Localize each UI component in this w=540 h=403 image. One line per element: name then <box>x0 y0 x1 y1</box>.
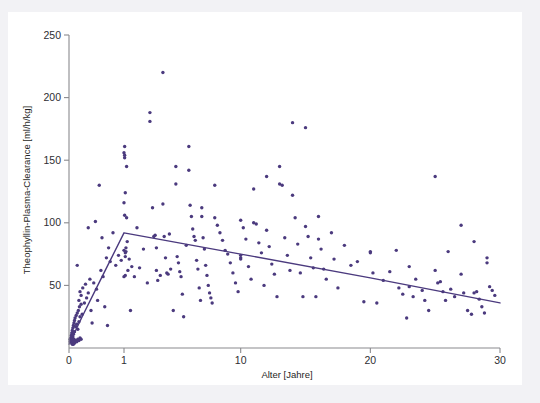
x-tick-label: 30 <box>494 354 506 366</box>
data-point <box>179 275 182 278</box>
data-point <box>356 260 359 263</box>
data-point <box>159 274 162 277</box>
regression-curve <box>69 233 500 344</box>
data-point <box>433 175 436 178</box>
data-point <box>81 286 84 289</box>
data-point <box>388 270 391 273</box>
data-point <box>414 277 417 280</box>
data-point <box>105 256 108 259</box>
data-point <box>349 264 352 267</box>
data-point <box>107 246 110 249</box>
data-point <box>480 305 483 308</box>
data-point <box>236 290 239 293</box>
data-point <box>405 316 408 319</box>
data-point <box>84 282 87 285</box>
data-point <box>397 286 400 289</box>
data-point <box>168 232 171 235</box>
data-point <box>124 274 127 277</box>
data-point <box>130 265 133 268</box>
data-point <box>210 301 213 304</box>
data-point <box>85 296 88 299</box>
data-point <box>126 269 129 272</box>
y-tick-label: 150 <box>43 154 61 166</box>
data-point <box>395 249 398 252</box>
data-point <box>423 299 426 302</box>
data-point <box>288 269 291 272</box>
data-point <box>488 285 491 288</box>
data-point <box>129 309 132 312</box>
data-point <box>244 237 247 240</box>
data-point <box>127 257 130 260</box>
data-point <box>296 242 299 245</box>
data-point <box>213 184 216 187</box>
data-point <box>283 236 286 239</box>
data-point <box>79 294 82 297</box>
data-point <box>247 265 250 268</box>
data-point <box>336 286 339 289</box>
data-point <box>76 264 79 267</box>
data-point <box>125 216 128 219</box>
data-point <box>123 153 126 156</box>
data-point <box>291 121 294 124</box>
data-point <box>114 264 117 267</box>
data-point <box>156 279 159 282</box>
data-point <box>190 215 193 218</box>
data-point <box>204 264 207 267</box>
data-point <box>218 231 221 234</box>
data-point <box>260 251 263 254</box>
data-point <box>164 256 167 259</box>
y-tick-label: 200 <box>43 91 61 103</box>
data-point <box>133 275 136 278</box>
data-point <box>177 261 180 264</box>
data-point <box>343 244 346 247</box>
y-tick-label: 250 <box>43 29 61 41</box>
data-point <box>255 222 258 225</box>
data-point <box>252 187 255 190</box>
data-point <box>196 267 199 270</box>
data-point <box>172 309 175 312</box>
data-point <box>199 299 202 302</box>
data-point <box>96 299 99 302</box>
data-point <box>99 269 102 272</box>
data-point <box>92 281 95 284</box>
data-point <box>146 281 149 284</box>
data-point <box>453 295 456 298</box>
data-point <box>213 216 216 219</box>
scatter-plot: 50100150200250 01102030 Theophyllin-Plas… <box>0 0 540 403</box>
data-point <box>304 225 307 228</box>
data-point <box>200 215 203 218</box>
data-point <box>491 289 494 292</box>
data-point <box>229 261 232 264</box>
data-point <box>191 227 194 230</box>
data-point <box>446 250 449 253</box>
data-point <box>265 229 268 232</box>
data-point <box>265 175 268 178</box>
data-point <box>117 254 120 257</box>
data-points-group <box>68 71 496 346</box>
y-axis-ticks: 50100150200250 <box>43 29 69 291</box>
data-point <box>309 256 312 259</box>
data-point <box>249 277 252 280</box>
data-point <box>123 145 126 148</box>
figure-container: 50100150200250 01102030 Theophyllin-Plas… <box>0 0 540 403</box>
x-axis-ticks: 01102030 <box>66 348 506 366</box>
data-point <box>408 265 411 268</box>
data-point <box>124 255 127 258</box>
data-point <box>103 305 106 308</box>
data-point <box>242 226 245 229</box>
data-point <box>194 239 197 242</box>
data-point <box>90 321 93 324</box>
y-tick-label: 50 <box>49 279 61 291</box>
data-point <box>293 216 296 219</box>
data-point <box>459 272 462 275</box>
data-point <box>207 284 210 287</box>
data-point <box>275 295 278 298</box>
data-point <box>314 295 317 298</box>
x-tick-label: 10 <box>235 354 247 366</box>
x-axis-title: Alter [Jahre] <box>261 369 312 380</box>
data-point <box>401 292 404 295</box>
data-point <box>155 246 158 249</box>
data-point <box>226 252 229 255</box>
data-point <box>79 338 82 341</box>
data-point <box>79 302 82 305</box>
